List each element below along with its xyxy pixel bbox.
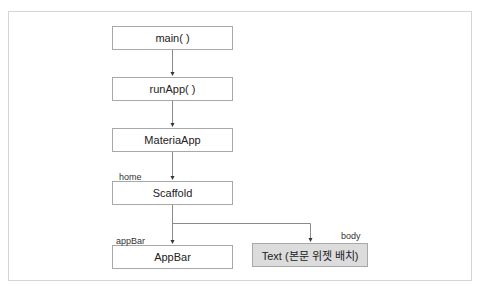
node-runapp: runApp( ) (112, 77, 233, 101)
connector-lines (0, 0, 479, 292)
node-text-label: Text (본문 위젯 배치) (262, 247, 359, 263)
node-text-body: Text (본문 위젯 배치) (252, 243, 368, 267)
edge-label-appbar: appBar (116, 236, 145, 246)
node-materiaapp: MateriaApp (112, 128, 233, 152)
node-scaffold-label: Scaffold (153, 187, 193, 199)
node-appbar: AppBar (112, 245, 233, 269)
node-main: main( ) (112, 26, 233, 50)
node-scaffold: Scaffold (112, 181, 233, 205)
node-runapp-label: runApp( ) (150, 83, 196, 95)
node-appbar-label: AppBar (154, 251, 191, 263)
edge-label-body: body (341, 231, 361, 241)
node-main-label: main( ) (155, 32, 189, 44)
node-materiaapp-label: MateriaApp (144, 134, 200, 146)
edge-label-home: home (119, 172, 142, 182)
